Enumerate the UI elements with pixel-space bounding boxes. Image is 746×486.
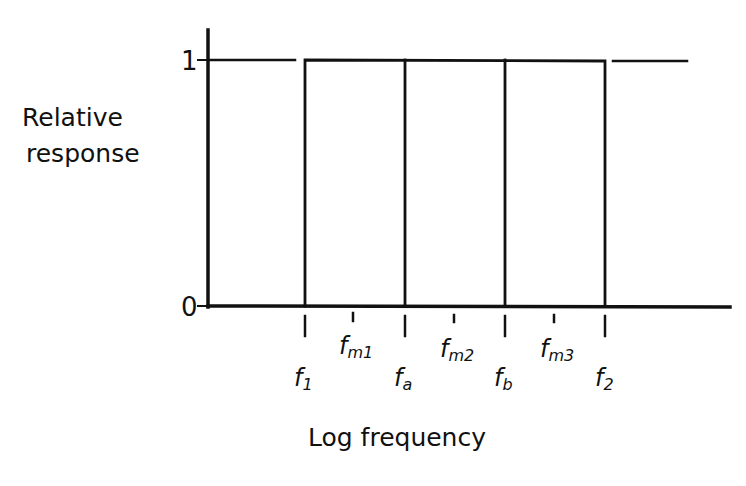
x-axis	[208, 306, 730, 307]
tick-fm3: fm3	[540, 335, 574, 365]
y-tick-1: 1	[181, 48, 198, 74]
tick-fm1: fm1	[339, 332, 373, 362]
x-axis-label: Log frequency	[308, 425, 486, 450]
y-axis-label: Relative response	[22, 100, 140, 172]
y-tick-0: 0	[181, 294, 198, 320]
tick-fm2: fm2	[440, 335, 474, 365]
tick-f2: f2	[595, 364, 614, 394]
tick-f1: f1	[294, 364, 313, 394]
tick-fa: fa	[394, 364, 412, 394]
tick-fb: fb	[494, 364, 513, 394]
band-filter-outline	[305, 60, 605, 306]
chart-plot	[0, 0, 746, 486]
